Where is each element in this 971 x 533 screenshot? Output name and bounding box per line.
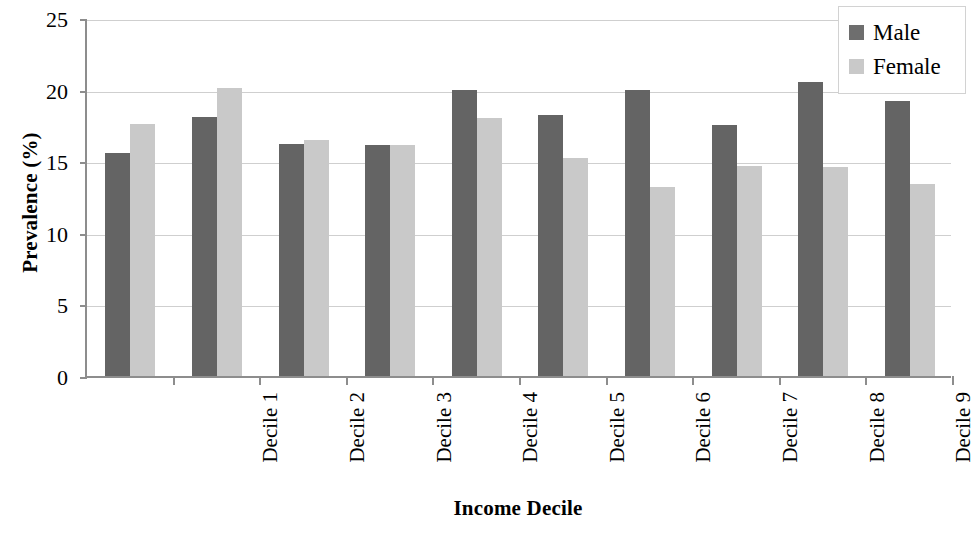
legend-item-female[interactable]: Female	[849, 49, 959, 83]
x-tick-mark-9	[865, 376, 867, 385]
y-tick-label-0: 0	[14, 367, 68, 389]
y-tick-label-20: 20	[14, 81, 68, 103]
x-tick-mark-5	[519, 376, 521, 385]
x-tick-mark-10	[952, 376, 954, 385]
bar-male-decile-2	[192, 117, 217, 376]
bar-female-decile-8	[737, 166, 762, 377]
bar-female-decile-3	[304, 140, 329, 376]
legend-swatch-female-icon	[849, 59, 864, 74]
bar-female-decile-6	[563, 158, 588, 376]
y-tick-label-25: 25	[14, 9, 68, 31]
bar-male-decile-5	[452, 90, 477, 376]
bar-chart: Prevalence (%) 0510152025 Decile 1Decile…	[0, 0, 971, 533]
bar-male-decile-3	[279, 144, 304, 376]
x-tick-mark-4	[432, 376, 434, 385]
plot-area	[85, 20, 951, 378]
chart-legend: MaleFemale	[838, 6, 966, 94]
y-tick-mark-25	[80, 19, 87, 21]
bar-female-decile-1	[130, 124, 155, 376]
x-tick-label-decile-9: Decile 9	[952, 392, 971, 512]
x-tick-label-decile-2: Decile 2	[346, 392, 368, 512]
x-tick-label-decile-4: Decile 4	[519, 392, 541, 512]
bar-male-decile-6	[538, 115, 563, 376]
x-tick-label-decile-7: Decile 7	[779, 392, 801, 512]
legend-label-female: Female	[873, 55, 941, 78]
x-tick-label-decile-3: Decile 3	[433, 392, 455, 512]
x-tick-mark-7	[692, 376, 694, 385]
bar-male-decile-1	[105, 153, 130, 376]
x-tick-label-decile-8: Decile 8	[866, 392, 888, 512]
legend-label-male: Male	[873, 21, 920, 44]
bar-male-decile-10	[885, 101, 910, 376]
x-tick-label-decile-5: Decile 5	[606, 392, 628, 512]
bar-male-decile-7	[625, 90, 650, 376]
gridline-25	[87, 20, 951, 21]
x-tick-label-decile-1: Decile 1	[259, 392, 281, 512]
bar-female-decile-2	[217, 88, 242, 376]
y-tick-mark-15	[80, 162, 87, 164]
y-tick-mark-10	[80, 234, 87, 236]
x-tick-mark-6	[606, 376, 608, 385]
y-tick-mark-0	[80, 377, 87, 379]
legend-swatch-male-icon	[849, 25, 864, 40]
bar-male-decile-4	[365, 145, 390, 376]
x-tick-mark-2	[259, 376, 261, 385]
y-tick-label-5: 5	[14, 295, 68, 317]
bar-female-decile-5	[477, 118, 502, 376]
y-tick-mark-5	[80, 305, 87, 307]
legend-item-male[interactable]: Male	[849, 15, 959, 49]
bar-female-decile-9	[823, 167, 848, 376]
x-tick-mark-1	[173, 376, 175, 385]
x-tick-mark-3	[346, 376, 348, 385]
x-tick-mark-8	[779, 376, 781, 385]
x-axis-title: Income Decile	[85, 496, 951, 521]
bar-male-decile-8	[712, 125, 737, 376]
bar-female-decile-10	[910, 184, 935, 376]
y-tick-mark-20	[80, 91, 87, 93]
bar-female-decile-7	[650, 187, 675, 376]
bar-male-decile-9	[798, 82, 823, 376]
y-tick-label-10: 10	[14, 224, 68, 246]
x-tick-label-decile-6: Decile 6	[692, 392, 714, 512]
bar-female-decile-4	[390, 145, 415, 376]
y-tick-label-15: 15	[14, 152, 68, 174]
